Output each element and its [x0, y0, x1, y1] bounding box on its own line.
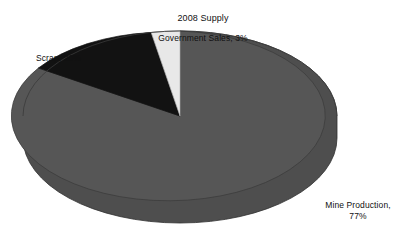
slice-label-scrap: Scrap, 20%	[36, 53, 81, 64]
pie-chart-figure: 2008 Supply Government Sales, 3% Scrap, …	[0, 0, 406, 247]
slice-label-mine-production: Mine Production,77%	[316, 200, 400, 222]
chart-title: 2008 Supply	[0, 13, 406, 23]
slice-label-mine-production-line2: 77%	[316, 211, 400, 222]
slice-label-mine-production-line1: Mine Production,	[325, 200, 390, 210]
slice-label-government-sales: Government Sales, 3%	[0, 33, 406, 44]
